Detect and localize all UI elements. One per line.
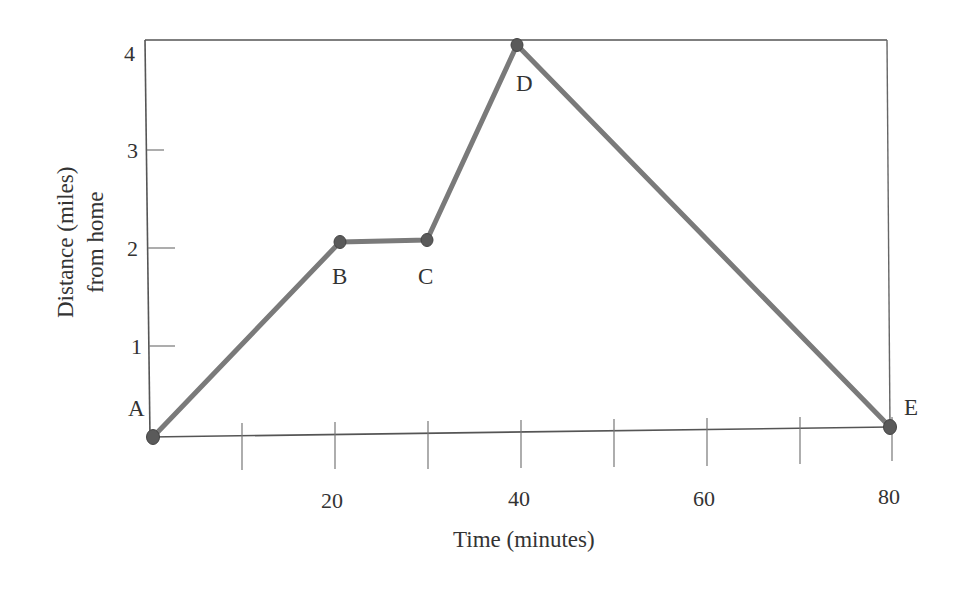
y-ticks (147, 150, 175, 346)
x-axis-title: Time (minutes) (453, 527, 595, 552)
y-tick-label-3: 3 (127, 138, 138, 163)
point-label-a: A (128, 396, 145, 421)
x-tick-label-40: 40 (508, 486, 530, 511)
point-label-e: E (904, 395, 918, 420)
distance-time-chart: 4 3 2 1 20 40 60 80 Time (minutes) Dista… (0, 0, 956, 593)
x-tick-label-80: 80 (878, 484, 900, 509)
x-tick-label-20: 20 (321, 488, 343, 513)
y-tick-label-2: 2 (127, 236, 138, 261)
point-label-c: C (418, 264, 433, 289)
point-label-b: B (332, 264, 347, 289)
x-axis (150, 427, 890, 437)
data-markers (147, 39, 897, 445)
y-axis-title-line2: from home (83, 191, 108, 293)
y-axis (145, 40, 150, 437)
x-tick-label-60: 60 (693, 486, 715, 511)
y-tick-label-1: 1 (131, 334, 142, 359)
point-d-marker (511, 39, 523, 52)
distance-line (153, 45, 890, 437)
point-e-marker (884, 420, 897, 435)
y-axis-title-line1: Distance (miles) (53, 167, 78, 318)
y-tick-label-4: 4 (124, 41, 135, 66)
x-ticks (242, 417, 892, 470)
right-border (887, 40, 890, 428)
point-b-marker (334, 236, 346, 249)
point-a-marker (147, 430, 160, 445)
point-label-d: D (516, 71, 533, 96)
point-c-marker (421, 234, 433, 247)
